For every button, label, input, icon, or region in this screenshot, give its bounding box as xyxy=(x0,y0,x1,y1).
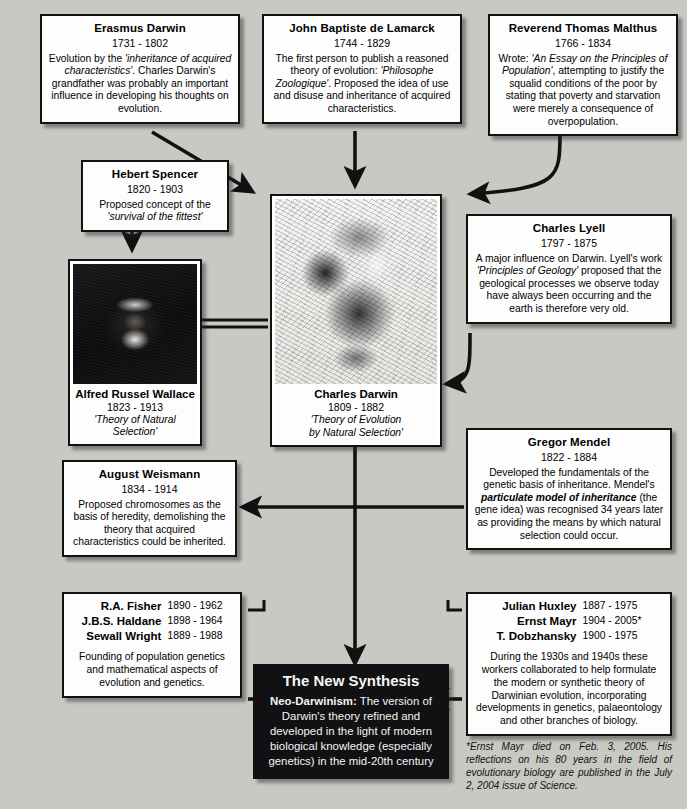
new-synthesis-title: The New Synthesis xyxy=(263,672,439,689)
person-row: J.B.S. Haldane1898 - 1964 xyxy=(82,614,223,629)
people-list: Julian Huxley1887 - 1975Ernst Mayr1904 -… xyxy=(497,599,642,644)
portrait-name: Alfred Russel Wallace xyxy=(75,388,195,400)
arrow-malthus-to-darwin xyxy=(470,132,560,194)
card-body: Proposed chromosomes as the basis of her… xyxy=(70,499,229,549)
card-years: 1822 - 1884 xyxy=(474,451,664,464)
portrait-subtitle-1: 'Theory of Evolution xyxy=(277,414,435,426)
card-title: Hebert Spencer xyxy=(89,167,221,181)
person-dates: 1900 - 1975 xyxy=(582,629,641,644)
portrait-card-wallace: Alfred Russel Wallace 1823 - 1913 'Theor… xyxy=(68,259,202,446)
card-new-synthesis: The New Synthesis Neo-Darwinism: The ver… xyxy=(253,664,449,779)
card-years: 1766 - 1834 xyxy=(496,37,670,50)
card-gregor-mendel: Gregor Mendel 1822 - 1884 Developed the … xyxy=(466,428,672,550)
person-name: Ernst Mayr xyxy=(497,614,583,629)
portrait-subtitle-2: by Natural Selection' xyxy=(277,427,435,439)
arrow-lyell-to-darwin xyxy=(446,333,470,384)
card-years: 1731 - 1802 xyxy=(48,37,232,50)
person-dates: 1898 - 1964 xyxy=(167,614,222,629)
person-dates: 1904 - 2005* xyxy=(582,614,641,629)
portrait-name: Charles Darwin xyxy=(277,388,435,400)
person-dates: 1890 - 1962 xyxy=(167,599,222,614)
people-list: R.A. Fisher1890 - 1962J.B.S. Haldane1898… xyxy=(82,599,223,644)
card-lamarck: John Baptiste de Lamarck 1744 - 1829 The… xyxy=(262,14,462,124)
person-row: Julian Huxley1887 - 1975 xyxy=(497,599,642,614)
arrow-popgen-connector xyxy=(248,600,264,610)
card-body: During the 1930s and 1940s these workers… xyxy=(474,651,664,728)
card-years: 1834 - 1914 xyxy=(70,483,229,496)
diagram-canvas: Erasmus Darwin 1731 - 1802 Evolution by … xyxy=(0,0,687,809)
card-body: Evolution by the 'inheritance of acquire… xyxy=(48,53,232,116)
portrait-years: 1809 - 1882 xyxy=(277,401,435,413)
portrait-subtitle: 'Theory of Natural Selection' xyxy=(75,414,195,439)
person-dates: 1889 - 1988 xyxy=(167,629,222,644)
person-name: Sewall Wright xyxy=(82,629,168,644)
new-synthesis-body: Neo-Darwinism: The version of Darwin's t… xyxy=(263,694,439,769)
card-modern-synthesis-workers: Julian Huxley1887 - 1975Ernst Mayr1904 -… xyxy=(466,592,672,736)
person-row: Sewall Wright1889 - 1988 xyxy=(82,629,223,644)
person-name: Julian Huxley xyxy=(497,599,583,614)
card-august-weismann: August Weismann 1834 - 1914 Proposed chr… xyxy=(62,460,237,557)
card-title: Gregor Mendel xyxy=(474,435,664,449)
card-body: Proposed concept of the 'survival of the… xyxy=(89,199,221,224)
card-malthus: Reverend Thomas Malthus 1766 - 1834 Wrot… xyxy=(488,14,678,136)
person-row: R.A. Fisher1890 - 1962 xyxy=(82,599,223,614)
card-erasmus-darwin: Erasmus Darwin 1731 - 1802 Evolution by … xyxy=(40,14,240,124)
card-body: A major influence on Darwin. Lyell's wor… xyxy=(474,253,664,316)
person-row: T. Dobzhansky1900 - 1975 xyxy=(497,629,642,644)
card-title: Erasmus Darwin xyxy=(48,21,232,35)
card-title: Charles Lyell xyxy=(474,221,664,235)
portrait-card-darwin: Charles Darwin 1809 - 1882 'Theory of Ev… xyxy=(270,194,442,447)
card-title: John Baptiste de Lamarck xyxy=(270,21,454,35)
card-body: The first person to publish a reasoned t… xyxy=(270,53,454,116)
card-population-genetics: R.A. Fisher1890 - 1962J.B.S. Haldane1898… xyxy=(62,592,242,698)
card-years: 1797 - 1875 xyxy=(474,237,664,250)
arrow-workers-connector xyxy=(448,600,462,610)
footnote-ernst-mayr: *Ernst Mayr died on Feb. 3, 2005. His re… xyxy=(466,740,672,792)
card-years: 1744 - 1829 xyxy=(270,37,454,50)
person-row: Ernst Mayr1904 - 2005* xyxy=(497,614,642,629)
person-name: T. Dobzhansky xyxy=(497,629,583,644)
card-years: 1820 - 1903 xyxy=(89,183,221,196)
card-body: Founding of population genetics and math… xyxy=(70,651,234,690)
wallace-photo xyxy=(73,264,197,384)
darwin-engraving xyxy=(275,199,437,384)
card-title: Reverend Thomas Malthus xyxy=(496,21,670,35)
card-charles-lyell: Charles Lyell 1797 - 1875 A major influe… xyxy=(466,214,672,324)
card-title: August Weismann xyxy=(70,467,229,481)
new-synthesis-lead: Neo-Darwinism: xyxy=(270,695,357,707)
card-body: Developed the fundamentals of the geneti… xyxy=(474,467,664,542)
portrait-years: 1823 - 1913 xyxy=(75,401,195,413)
person-name: J.B.S. Haldane xyxy=(82,614,168,629)
portrait-caption: Alfred Russel Wallace 1823 - 1913 'Theor… xyxy=(73,384,197,444)
person-name: R.A. Fisher xyxy=(82,599,168,614)
card-herbert-spencer: Hebert Spencer 1820 - 1903 Proposed conc… xyxy=(81,160,229,232)
card-body: Wrote: 'An Essay on the Principles of Po… xyxy=(496,53,670,128)
person-dates: 1887 - 1975 xyxy=(582,599,641,614)
portrait-caption: Charles Darwin 1809 - 1882 'Theory of Ev… xyxy=(275,384,437,445)
